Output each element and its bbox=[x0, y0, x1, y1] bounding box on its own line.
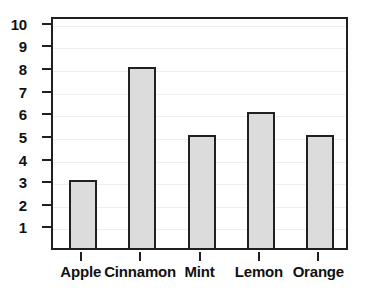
y-tick-label: 6 bbox=[19, 107, 27, 122]
x-tick-label-orange: Orange bbox=[293, 264, 344, 279]
y-tick-label: 5 bbox=[19, 129, 27, 144]
y-tick-label: 8 bbox=[19, 62, 27, 77]
y-tick-label: 4 bbox=[19, 152, 27, 167]
gridline bbox=[53, 116, 346, 117]
y-tick-label: 1 bbox=[19, 220, 27, 235]
x-tick-mark bbox=[258, 252, 260, 261]
y-tick-mark bbox=[42, 226, 51, 228]
plot-area bbox=[51, 17, 348, 250]
gridline bbox=[53, 26, 346, 27]
y-tick-mark bbox=[42, 113, 51, 115]
bar-chart: 12345678910 AppleCinnamonMintLemonOrange bbox=[0, 0, 371, 293]
y-tick-mark bbox=[42, 181, 51, 183]
bar-apple[interactable] bbox=[69, 180, 97, 248]
bar-mint[interactable] bbox=[188, 135, 216, 248]
x-tick-mark bbox=[80, 252, 82, 261]
y-tick-label: 9 bbox=[19, 39, 27, 54]
y-tick-label: 3 bbox=[19, 175, 27, 190]
y-tick-label: 10 bbox=[11, 16, 27, 31]
x-tick-label-lemon: Lemon bbox=[235, 264, 283, 279]
bar-cinnamon[interactable] bbox=[128, 67, 156, 248]
bar-lemon[interactable] bbox=[247, 112, 275, 248]
bar-orange[interactable] bbox=[306, 135, 334, 248]
y-axis: 12345678910 bbox=[0, 0, 51, 293]
y-tick-mark bbox=[42, 45, 51, 47]
x-tick-label-mint: Mint bbox=[184, 264, 214, 279]
x-tick-mark bbox=[139, 252, 141, 261]
gridline bbox=[53, 71, 346, 72]
y-tick-mark bbox=[42, 68, 51, 70]
gridline bbox=[53, 94, 346, 95]
y-tick-mark bbox=[42, 136, 51, 138]
y-tick-mark bbox=[42, 159, 51, 161]
x-tick-label-cinnamon: Cinnamon bbox=[104, 264, 176, 279]
y-tick-label: 2 bbox=[19, 197, 27, 212]
x-tick-label-apple: Apple bbox=[60, 264, 101, 279]
y-tick-mark bbox=[42, 91, 51, 93]
x-tick-mark bbox=[199, 252, 201, 261]
y-tick-mark bbox=[42, 204, 51, 206]
gridline bbox=[53, 48, 346, 49]
y-tick-label: 7 bbox=[19, 84, 27, 99]
x-tick-mark bbox=[317, 252, 319, 261]
y-tick-mark bbox=[42, 23, 51, 25]
